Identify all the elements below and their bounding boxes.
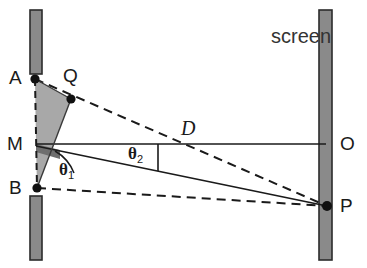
- screen-label: screen: [271, 26, 331, 46]
- point-marker-a: [30, 74, 39, 83]
- point-label-p: P: [340, 196, 353, 215]
- theta-2-label: θ2: [128, 145, 143, 165]
- point-label-q: Q: [63, 66, 78, 85]
- theta-2-symbol: θ: [128, 144, 137, 163]
- right-screen-bar: [319, 10, 332, 260]
- theta-2-subscript: 2: [137, 153, 143, 165]
- point-label-o: O: [340, 134, 355, 153]
- point-marker-b: [32, 183, 41, 192]
- ray-m-to-p: [36, 146, 327, 206]
- theta-1-label: θ1: [59, 161, 74, 181]
- theta-1-symbol: θ: [59, 160, 68, 179]
- left-barrier-bottom-segment: [30, 196, 42, 260]
- point-marker-q: [66, 94, 75, 103]
- dashed-ray-a-to-p: [35, 79, 327, 206]
- point-label-a: A: [9, 68, 22, 87]
- point-label-m: M: [7, 134, 23, 153]
- optics-diagram-figure: screen A Q M B O P D θ1 θ2: [0, 0, 367, 268]
- left-barrier-top-segment: [30, 10, 42, 74]
- distance-label-d: D: [181, 118, 195, 138]
- theta-1-subscript: 1: [68, 169, 74, 181]
- point-marker-p: [322, 201, 332, 211]
- point-label-b: B: [9, 178, 22, 197]
